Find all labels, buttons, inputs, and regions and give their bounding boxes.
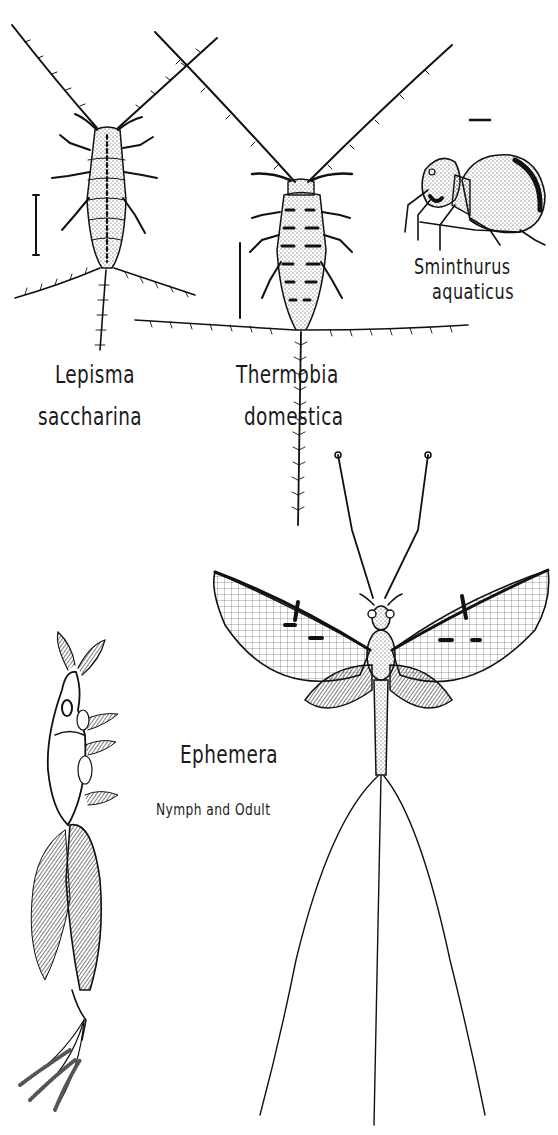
- ephemera-nymph-drawing: [20, 632, 118, 1110]
- ephemera-caption-label: Nymph and Odult: [156, 800, 270, 819]
- illustration-plate: Lepisma saccharina Thermobia domestica S…: [0, 0, 558, 1135]
- sminthurus-drawing: [405, 120, 545, 250]
- sminthurus-species-label: aquaticus: [432, 280, 514, 304]
- ephemera-adult-drawing: [214, 452, 549, 1125]
- ephemera-genus-label: Ephemera: [180, 740, 278, 769]
- lepisma-genus-label: Lepisma: [55, 360, 135, 389]
- lepisma-species-label: saccharina: [38, 402, 142, 431]
- thermobia-genus-label: Thermobia: [236, 360, 339, 389]
- thermobia-species-label: domestica: [244, 402, 343, 431]
- lepisma-drawing: [12, 25, 217, 350]
- plate-drawings: [0, 0, 558, 1135]
- sminthurus-genus-label: Sminthurus: [414, 255, 511, 279]
